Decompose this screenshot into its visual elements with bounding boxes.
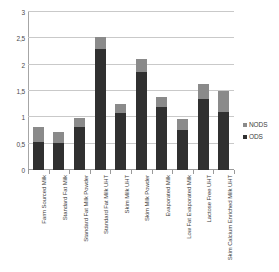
chart-legend: NODSODS xyxy=(243,121,267,140)
plot-area xyxy=(28,12,234,170)
x-axis-tick-mark xyxy=(28,170,29,174)
bar-9 xyxy=(198,84,209,170)
x-axis-label-wrapper: Skim Calcium Enriched Milk UHT xyxy=(227,175,233,260)
bar-segment-ods xyxy=(95,49,106,170)
bar-segment-nods xyxy=(198,84,209,99)
bar-segment-nods xyxy=(95,37,106,49)
bar-segment-ods xyxy=(177,130,188,170)
x-axis-tick-mark xyxy=(172,170,173,174)
bar-segment-nods xyxy=(156,97,167,107)
y-axis-tick-label: 1 xyxy=(22,114,25,121)
bar-3 xyxy=(74,118,85,170)
bar-segment-ods xyxy=(53,143,64,170)
x-axis-tick-mark xyxy=(90,170,91,174)
bar-4 xyxy=(95,37,106,170)
y-axis-tick-label: 1,5 xyxy=(17,88,25,95)
x-axis-category-label: Skim Milk Powder xyxy=(144,175,150,221)
x-axis-tick-mark xyxy=(131,170,132,174)
x-axis-label-wrapper: Farm Sourced Milk xyxy=(41,175,47,224)
bar-segment-nods xyxy=(74,118,85,127)
bar-5 xyxy=(115,104,126,170)
x-axis-category-labels: Farm Sourced MilkStandard Fat MilkStanda… xyxy=(28,175,234,271)
y-axis-tick-label: 3 xyxy=(22,9,25,16)
y-axis-tick-label: 2 xyxy=(22,61,25,68)
x-axis-category-label: Low Fat Evaporated Milk xyxy=(186,175,192,239)
bar-segment-nods xyxy=(218,91,229,112)
x-axis-tick-mark xyxy=(152,170,153,174)
bar-2 xyxy=(53,132,64,170)
legend-item-nods[interactable]: NODS xyxy=(243,121,267,128)
x-axis-category-label: Farm Sourced Milk xyxy=(41,175,47,224)
x-axis-tick-mark xyxy=(49,170,50,174)
bar-segment-ods xyxy=(74,127,85,170)
y-axis-tick-label: 0,5 xyxy=(17,140,25,147)
bar-segment-nods xyxy=(53,132,64,144)
x-axis-label-wrapper: Skim Milk UHT xyxy=(124,175,130,213)
x-axis-label-wrapper: Lactose Free UHT xyxy=(206,175,212,222)
x-axis-category-label: Skim Calcium Enriched Milk UHT xyxy=(227,175,233,260)
x-axis-category-label: Evaporated Milk xyxy=(165,175,171,217)
x-axis-category-label: Standard Fat Milk UHT xyxy=(103,175,109,234)
x-axis-category-label: Standard Fat Milk Powder xyxy=(83,175,89,242)
x-axis-tick-mark xyxy=(234,170,235,174)
x-axis-tick-marks xyxy=(28,170,234,174)
x-axis-category-label: Standard Fat Milk xyxy=(62,175,68,220)
legend-item-ods[interactable]: ODS xyxy=(243,133,267,140)
bar-segment-ods xyxy=(136,72,147,170)
legend-swatch-icon xyxy=(243,135,247,139)
bar-1 xyxy=(33,127,44,170)
x-axis-tick-mark xyxy=(213,170,214,174)
bar-segment-ods xyxy=(115,113,126,170)
bar-10 xyxy=(218,91,229,170)
x-axis-label-wrapper: Standard Fat Milk UHT xyxy=(103,175,109,234)
legend-swatch-icon xyxy=(243,123,247,127)
bar-chart: 00,511,522,53 Farm Sourced MilkStandard … xyxy=(0,0,279,272)
bar-segment-ods xyxy=(156,107,167,170)
bar-segment-nods xyxy=(177,119,188,130)
x-axis-category-label: Skim Milk UHT xyxy=(124,175,130,213)
legend-label: NODS xyxy=(249,121,267,128)
x-axis-label-wrapper: Skim Milk Powder xyxy=(144,175,150,221)
bar-segment-nods xyxy=(33,127,44,142)
bar-segment-ods xyxy=(218,112,229,170)
x-axis-category-label: Lactose Free UHT xyxy=(206,175,212,222)
bar-segment-nods xyxy=(136,59,147,71)
bar-6 xyxy=(136,59,147,170)
bar-segment-nods xyxy=(115,104,126,113)
y-axis-tick-label: 2,5 xyxy=(17,35,25,42)
x-axis-tick-mark xyxy=(69,170,70,174)
bar-segment-ods xyxy=(198,99,209,170)
y-axis-tick-labels: 00,511,522,53 xyxy=(0,12,25,170)
x-axis-label-wrapper: Standard Fat Milk Powder xyxy=(83,175,89,242)
x-axis-label-wrapper: Evaporated Milk xyxy=(165,175,171,217)
bars-layer xyxy=(28,12,234,170)
bar-segment-ods xyxy=(33,142,44,170)
legend-label: ODS xyxy=(249,133,263,140)
x-axis-tick-mark xyxy=(193,170,194,174)
x-axis-label-wrapper: Low Fat Evaporated Milk xyxy=(186,175,192,239)
x-axis-label-wrapper: Standard Fat Milk xyxy=(62,175,68,220)
y-axis-tick-label: 0 xyxy=(22,167,25,174)
bar-7 xyxy=(156,97,167,170)
bar-8 xyxy=(177,119,188,170)
x-axis-tick-mark xyxy=(110,170,111,174)
